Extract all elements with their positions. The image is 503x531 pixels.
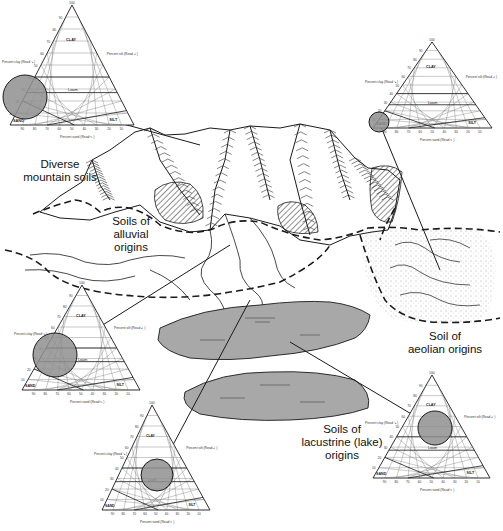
landscape-illustration: 101020203030404050506060707080809090CLAY…	[0, 0, 503, 531]
svg-text:80: 80	[135, 425, 139, 429]
svg-text:70: 70	[130, 435, 134, 439]
axis-label-sand: Percent sand (Read ↖)	[60, 135, 94, 139]
class-label-silt: SILT	[468, 121, 476, 125]
class-label-clay: CLAY	[146, 434, 156, 438]
svg-text:80: 80	[413, 58, 417, 62]
svg-text:80: 80	[395, 130, 399, 134]
hatched-patch-3	[370, 166, 402, 223]
class-label-silt: SILT	[109, 117, 118, 122]
svg-text:100: 100	[69, 1, 75, 5]
svg-text:10: 10	[476, 480, 480, 484]
class-label-sand: SAND	[105, 504, 115, 508]
lakes	[158, 301, 370, 420]
svg-text:80: 80	[413, 394, 417, 398]
svg-text:50: 50	[430, 480, 434, 484]
svg-text:60: 60	[143, 512, 147, 516]
svg-text:40: 40	[441, 480, 445, 484]
class-label-sand: SAND	[376, 472, 387, 476]
axis-label-silt: Percent silt (Read ↙)	[107, 52, 138, 56]
soil-texture-highlight-circle	[418, 411, 452, 445]
svg-text:80: 80	[33, 127, 37, 131]
svg-text:100: 100	[149, 401, 155, 405]
axis-label-silt: Percent silt (Read ↙)	[464, 415, 495, 419]
class-label-clay: CLAY	[76, 314, 86, 318]
axis-label-clay: Percent clay (Read ↘)	[14, 332, 47, 336]
svg-text:50: 50	[34, 64, 38, 68]
svg-text:10: 10	[120, 127, 124, 131]
svg-text:40: 40	[442, 130, 446, 134]
lower-lake	[184, 372, 369, 421]
svg-text:90: 90	[419, 49, 423, 53]
class-label-silt: SILT	[188, 503, 196, 507]
label-alluvial-soils: Soils of alluvial origins	[95, 215, 167, 254]
svg-text:20: 20	[105, 488, 109, 492]
class-label-clay: CLAY	[426, 65, 436, 69]
svg-text:10: 10	[478, 130, 482, 134]
svg-text:60: 60	[40, 52, 44, 56]
svg-text:40: 40	[91, 392, 95, 396]
class-label-silt: SILT	[467, 471, 475, 475]
class-label-silt: SILT	[116, 383, 124, 387]
svg-text:90: 90	[111, 512, 115, 516]
class-label-clay: CLAY	[66, 37, 77, 42]
label-lacustrine-soils: Soils of lacustrine (lake) origins	[282, 423, 402, 462]
svg-text:10: 10	[21, 378, 25, 382]
svg-text:50: 50	[431, 130, 435, 134]
class-label-loam: Loam	[428, 446, 437, 450]
svg-text:80: 80	[63, 305, 67, 309]
svg-text:80: 80	[122, 512, 126, 516]
svg-text:40: 40	[115, 467, 119, 471]
svg-text:20: 20	[186, 512, 190, 516]
svg-text:40: 40	[165, 512, 169, 516]
upper-lake	[158, 301, 370, 359]
svg-text:100: 100	[429, 38, 435, 42]
svg-text:90: 90	[20, 127, 24, 131]
soil-texture-highlight-circle	[33, 333, 77, 377]
svg-text:60: 60	[418, 480, 422, 484]
texture-triangle-1: 101020203030404050506060707080809090CLAY…	[2, 1, 200, 145]
svg-text:70: 70	[407, 66, 411, 70]
svg-text:10: 10	[126, 392, 130, 396]
svg-text:30: 30	[176, 512, 180, 516]
class-label-clay: CLAY	[426, 403, 436, 407]
svg-text:30: 30	[95, 127, 99, 131]
svg-text:70: 70	[57, 315, 61, 319]
svg-text:50: 50	[79, 392, 83, 396]
axis-label-sand: Percent sand (Read ↖)	[420, 138, 454, 142]
soil-texture-highlight-circle	[141, 459, 173, 491]
svg-text:70: 70	[55, 392, 59, 396]
svg-text:20: 20	[466, 130, 470, 134]
svg-text:90: 90	[59, 16, 63, 20]
svg-text:70: 70	[132, 512, 136, 516]
svg-text:60: 60	[419, 130, 423, 134]
class-label-loam: Loam	[78, 358, 87, 362]
axis-label-silt: Percent silt (Read ↙)	[466, 75, 497, 79]
svg-text:90: 90	[69, 294, 73, 298]
mountain-range	[40, 124, 400, 245]
svg-text:40: 40	[82, 127, 86, 131]
label-mountain-soils: Diverse mountain soils	[10, 158, 110, 184]
axis-label-clay: Percent clay (Read ↘)	[94, 452, 127, 456]
svg-text:30: 30	[453, 480, 457, 484]
svg-text:20: 20	[27, 368, 31, 372]
axis-label-sand: Percent sand (Read ↖)	[140, 520, 174, 524]
class-label-loam: Loam	[428, 101, 437, 105]
svg-text:10: 10	[372, 466, 376, 470]
svg-text:70: 70	[407, 130, 411, 134]
svg-text:30: 30	[103, 392, 107, 396]
svg-text:60: 60	[125, 446, 129, 450]
svg-text:80: 80	[394, 480, 398, 484]
axis-label-silt: Percent silt (Read ↙)	[114, 326, 145, 330]
svg-text:80: 80	[44, 392, 48, 396]
axis-label-clay: Percent clay (Read ↘)	[2, 60, 35, 64]
svg-text:10: 10	[100, 498, 104, 502]
axis-label-sand: Percent sand (Read ↖)	[420, 488, 454, 492]
svg-text:60: 60	[401, 75, 405, 79]
svg-text:40: 40	[390, 92, 394, 96]
axis-label-silt: Percent silt (Read ↙)	[186, 446, 217, 450]
svg-text:10: 10	[197, 512, 201, 516]
svg-text:60: 60	[401, 415, 405, 419]
svg-text:80: 80	[53, 28, 57, 32]
svg-text:30: 30	[454, 130, 458, 134]
svg-text:100: 100	[79, 281, 85, 285]
